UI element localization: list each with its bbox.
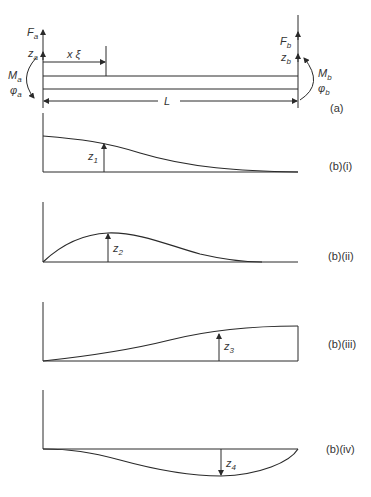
panel-b-iv: z4 (b)(iv)	[43, 390, 355, 476]
position-label: x ξ	[66, 48, 82, 61]
moment-a-arc	[26, 58, 36, 98]
panel-a-beam: Fa za Ma φa Fb zb Mb φb x ξ L (a)	[8, 15, 343, 114]
panel-b-iii-tag: (b)(iii)	[328, 338, 356, 350]
moment-b-label: Mb	[318, 67, 332, 82]
z1-label: z1	[87, 150, 98, 165]
z4-label: z4	[225, 457, 237, 472]
force-b-label: Fb	[280, 35, 292, 50]
shape-curve-4	[43, 449, 298, 476]
disp-b-label: zb	[280, 51, 292, 66]
panel-b-i: z1 (b)(i)	[43, 113, 352, 172]
length-label: L	[164, 95, 170, 107]
moment-b-arc	[300, 58, 314, 100]
panel-a-tag: (a)	[330, 102, 343, 114]
panel-b-ii: z2 (b)(ii)	[43, 202, 354, 262]
force-a-label: Fa	[27, 26, 39, 41]
panel-b-i-tag: (b)(i)	[329, 160, 352, 172]
shape-curve-1	[43, 136, 298, 172]
z2-label: z2	[112, 242, 124, 257]
disp-a-label: za	[27, 47, 39, 62]
rotation-a-label: φa	[10, 84, 22, 99]
panel-b-iv-tag: (b)(iv)	[326, 443, 355, 455]
panel-b-ii-tag: (b)(ii)	[328, 250, 354, 262]
shape-curve-3	[43, 326, 298, 361]
rotation-b-label: φb	[318, 82, 330, 97]
panel-b-iii: z3 (b)(iii)	[43, 302, 356, 361]
beam-shape-function-diagram: Fa za Ma φa Fb zb Mb φb x ξ L (a) z1 (b)…	[0, 0, 371, 497]
moment-a-label: Ma	[8, 69, 22, 84]
shape-curve-2	[43, 233, 262, 262]
z3-label: z3	[223, 340, 235, 355]
